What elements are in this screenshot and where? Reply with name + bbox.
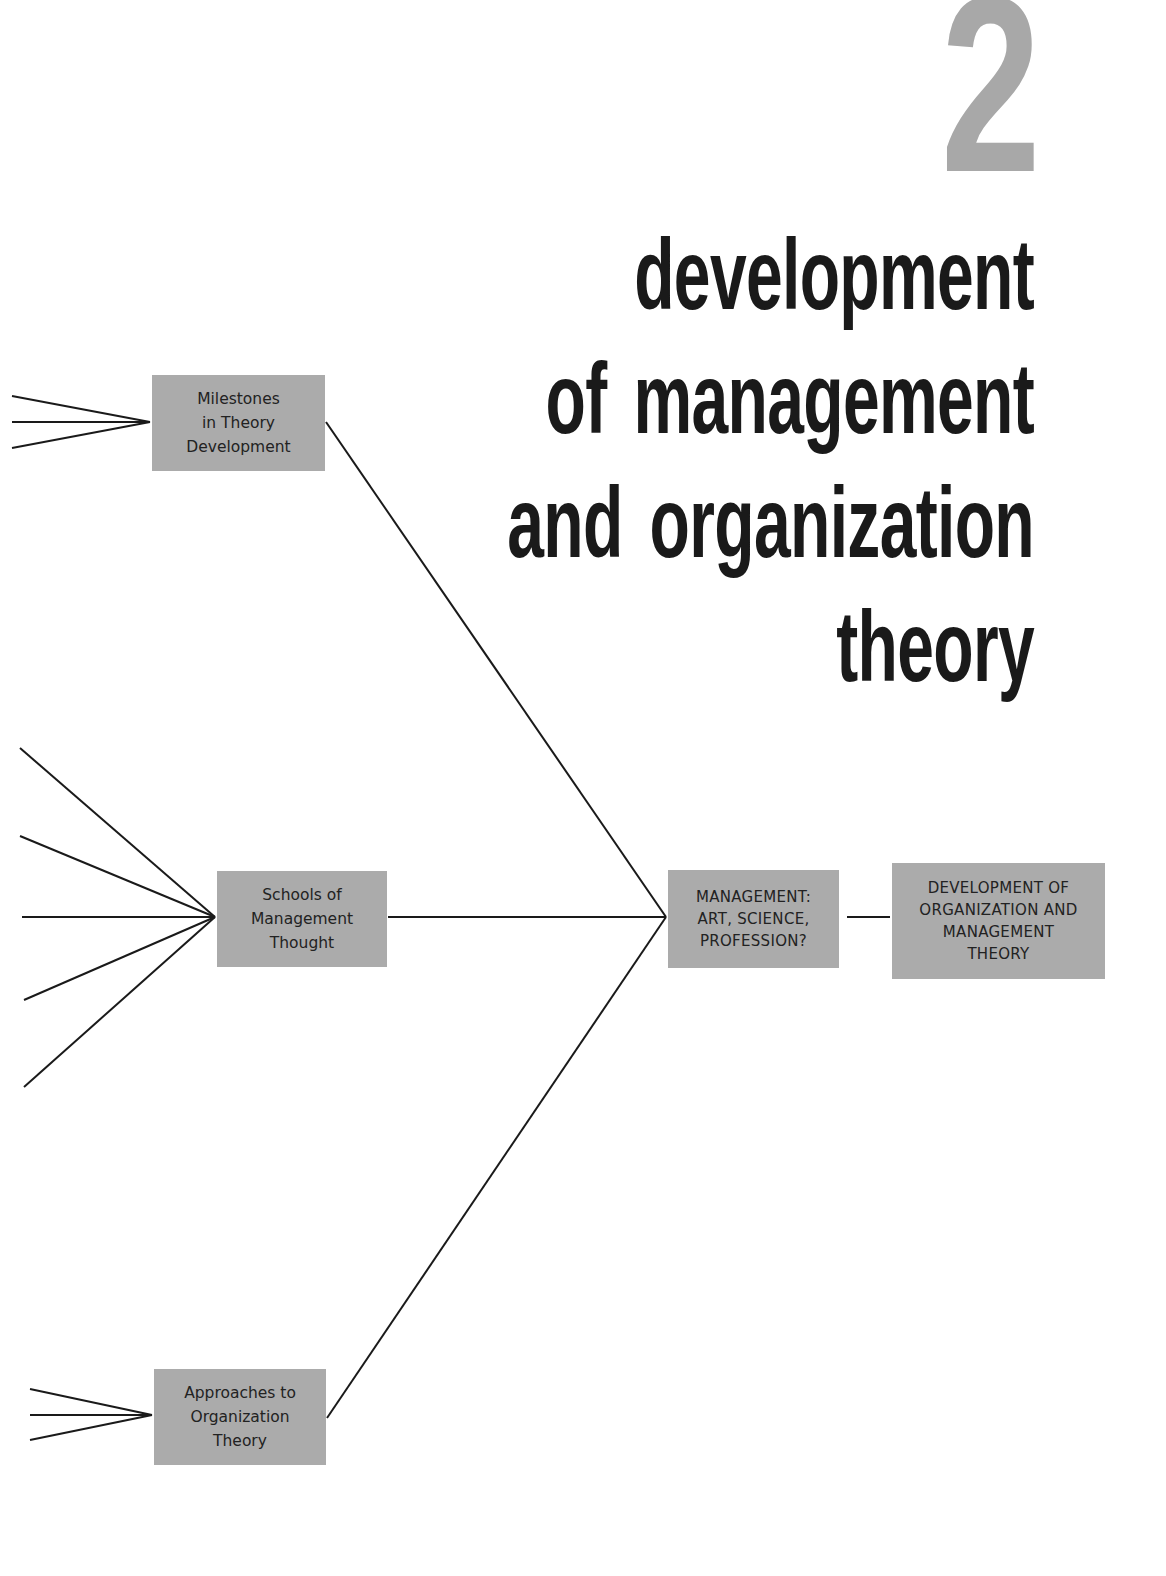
edge-milestones-management — [326, 422, 666, 917]
approaches-branch-1 — [30, 1389, 152, 1415]
diagram-connectors — [0, 0, 1166, 1576]
milestones-branch-1 — [12, 396, 150, 422]
schools-branch-2 — [20, 836, 215, 917]
node-development-label: DEVELOPMENT OF ORGANIZATION AND MANAGEME… — [919, 877, 1077, 965]
schools-branch-4 — [24, 917, 215, 1000]
schools-branch-1 — [20, 748, 215, 917]
edge-approaches-management — [327, 917, 666, 1418]
node-approaches-label: Approaches to Organization Theory — [184, 1381, 296, 1453]
node-milestones: Milestones in Theory Development — [152, 375, 325, 471]
node-management-label: MANAGEMENT: ART, SCIENCE, PROFESSION? — [696, 886, 811, 952]
node-milestones-label: Milestones in Theory Development — [186, 387, 290, 459]
schools-branch-5 — [24, 917, 215, 1087]
node-schools: Schools of Management Thought — [217, 871, 387, 967]
node-schools-label: Schools of Management Thought — [251, 883, 353, 955]
approaches-branch-3 — [30, 1415, 152, 1440]
node-approaches: Approaches to Organization Theory — [154, 1369, 326, 1465]
milestones-branch-3 — [12, 422, 150, 448]
node-management: MANAGEMENT: ART, SCIENCE, PROFESSION? — [668, 870, 839, 968]
node-development: DEVELOPMENT OF ORGANIZATION AND MANAGEME… — [892, 863, 1105, 979]
